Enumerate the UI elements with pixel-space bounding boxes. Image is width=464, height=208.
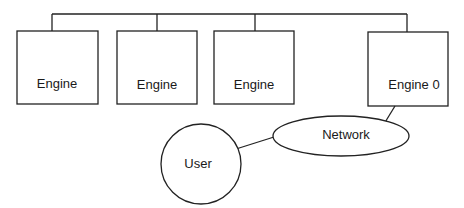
user-label: User	[184, 156, 212, 171]
engine-label-0: Engine 0	[388, 77, 439, 92]
network-label: Network	[322, 127, 370, 142]
user-network-link	[236, 137, 274, 149]
engine-box-0	[368, 32, 448, 106]
engine-network-diagram: Engine Engine Engine Engine 0 Network Us…	[0, 0, 464, 208]
engine-label-3: Engine	[234, 77, 274, 92]
engine-box-1	[17, 31, 98, 104]
engine-box-2	[117, 31, 197, 104]
engine-node-2[interactable]: Engine	[117, 31, 197, 104]
network-node[interactable]: Network	[273, 116, 409, 156]
engine-node-0[interactable]: Engine 0	[368, 32, 448, 106]
engine-label-1: Engine	[37, 76, 77, 91]
user-node[interactable]: User	[161, 124, 241, 204]
engine-node-1[interactable]: Engine	[17, 31, 98, 104]
engine-node-3[interactable]: Engine	[214, 31, 294, 104]
engine-box-3	[214, 31, 294, 104]
engine-label-2: Engine	[137, 77, 177, 92]
